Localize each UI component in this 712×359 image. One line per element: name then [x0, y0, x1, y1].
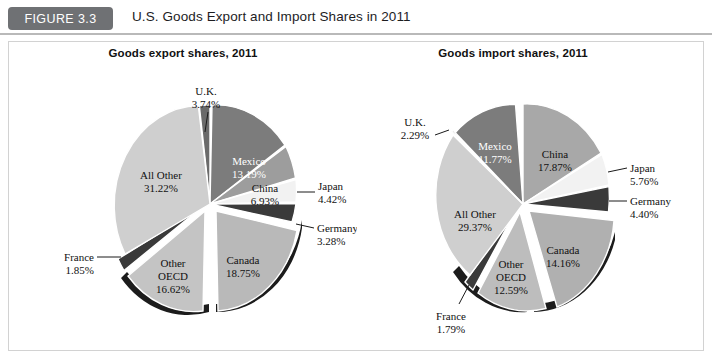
- pie-chart-import: China 17.87% Mexico 11.77% Canada 14.16%…: [339, 42, 687, 352]
- pie-label-export-france-value: 1.85%: [66, 264, 94, 276]
- pie-label-import-germany-value: 4.40%: [630, 208, 658, 220]
- pie-label-import-oecd-name1: Other: [498, 258, 523, 270]
- chart-panel-import: Goods import shares, 2011: [339, 42, 687, 352]
- figure-number-badge: FIGURE 3.3: [8, 7, 113, 30]
- pie-label-import-canada-name: Canada: [547, 244, 580, 256]
- pie-label-import-canada-value: 14.16%: [546, 257, 580, 269]
- pie-label-import-mexico-value: 11.77%: [478, 153, 512, 165]
- pie-label-import-oecd-name2: OECD: [496, 271, 526, 283]
- pie-label-import-uk-value: 2.29%: [401, 129, 429, 141]
- pie-label-export-china-name: China: [252, 182, 278, 194]
- pie-label-import-uk-name: U.K.: [404, 116, 426, 128]
- pie-label-import-france-value: 1.79%: [437, 323, 465, 335]
- pie-label-import-all-other-value: 29.37%: [458, 221, 492, 233]
- pie-label-export-all-other-name: All Other: [140, 169, 182, 181]
- pie-label-export-canada-name: Canada: [227, 254, 260, 266]
- pie-label-export-oecd-name1: Other: [160, 257, 185, 269]
- leader-line-import-japan: [608, 168, 627, 172]
- figure-body-frame: Goods export shares, 2011: [8, 41, 704, 351]
- pie-label-export-canada-value: 18.75%: [226, 267, 260, 279]
- pie-label-export-uk-name: U.K.: [195, 85, 217, 97]
- pie-label-import-all-other-name: All Other: [454, 208, 496, 220]
- chart-panel-export: Goods export shares, 2011: [9, 42, 357, 352]
- pie-label-export-oecd-name2: OECD: [158, 270, 188, 282]
- pie-label-import-mexico-name: Mexico: [478, 140, 512, 152]
- pie-label-import-japan-name: Japan: [630, 162, 656, 174]
- pie-label-export-mexico-name: Mexico: [232, 155, 266, 167]
- pie-label-export-china-value: 6.93%: [251, 195, 279, 207]
- header-divider: [0, 33, 712, 35]
- pie-label-import-japan-value: 5.76%: [630, 175, 658, 187]
- pie-label-import-france-name: France: [436, 310, 466, 322]
- leader-line-import-france: [459, 285, 469, 304]
- pie-label-export-all-other-value: 31.22%: [144, 182, 178, 194]
- pie-chart-export: Mexico 13.19% China 6.93% Canada 18.75% …: [9, 42, 357, 352]
- pie-label-export-uk-value: 3.74%: [192, 98, 220, 110]
- pie-label-export-france-name: France: [64, 251, 94, 263]
- figure-header: FIGURE 3.3 U.S. Goods Export and Import …: [0, 0, 712, 34]
- pie-label-export-mexico-value: 13.19%: [232, 168, 266, 180]
- leader-line-export-germany: [296, 224, 314, 228]
- pie-label-import-oecd-value: 12.59%: [494, 284, 528, 296]
- leader-line-import-uk: [435, 130, 449, 135]
- pie-label-import-china-name: China: [542, 148, 568, 160]
- pie-label-import-china-value: 17.87%: [538, 161, 572, 173]
- pie-label-export-oecd-value: 16.62%: [156, 283, 190, 295]
- pie-label-import-germany-name: Germany: [630, 195, 671, 207]
- figure-title: U.S. Goods Export and Import Shares in 2…: [132, 9, 411, 24]
- figure-container: FIGURE 3.3 U.S. Goods Export and Import …: [0, 0, 712, 359]
